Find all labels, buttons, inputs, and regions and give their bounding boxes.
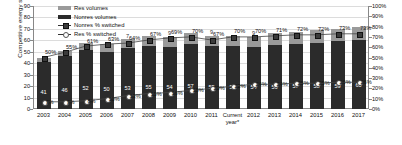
data-point-label: 61% [87, 38, 98, 44]
data-point-label: 73% [339, 25, 350, 31]
data-point-label: 10% [109, 96, 120, 102]
data-point [294, 33, 300, 39]
data-point-label: 8% [88, 98, 96, 104]
data-point-label: 72% [297, 26, 308, 32]
data-point-label: 7% [67, 99, 75, 105]
data-point-label: 18% [193, 87, 204, 93]
legend-label: Nonres volumes [74, 14, 117, 20]
data-point-label: 70% [192, 28, 203, 34]
data-point-label: 24% [277, 81, 288, 87]
legend-label: Res % switched [74, 31, 116, 37]
data-point-label: 50% [45, 49, 56, 55]
data-point [252, 35, 258, 41]
data-point-label: 69% [171, 29, 182, 35]
data-point-label: 26% [340, 79, 351, 85]
data-point-label: 25% [319, 80, 330, 86]
data-point-label: 7% [46, 99, 54, 105]
data-point-label: 16% [172, 90, 183, 96]
data-point-label: 26% [361, 79, 372, 85]
data-point [231, 35, 237, 41]
data-point-label: 22% [235, 83, 246, 89]
legend-swatch-icon [58, 15, 71, 19]
legend-label: Res volumes [74, 5, 108, 11]
legend-label: Nonres % switched [74, 22, 124, 28]
data-point-label: 20% [214, 85, 225, 91]
data-point-label: 70% [234, 28, 245, 34]
data-point-label: 70% [255, 28, 266, 34]
chart-legend: Res volumesNonres volumesNonres % switch… [58, 4, 124, 38]
data-point [357, 32, 363, 38]
legend-item[interactable]: Nonres volumes [58, 13, 124, 22]
data-point-label: 71% [276, 27, 287, 33]
legend-marker-icon [63, 32, 69, 38]
data-point-label: 25% [298, 80, 309, 86]
legend-marker-icon [63, 23, 69, 29]
data-point [105, 42, 111, 48]
data-point-label: 67% [150, 31, 161, 37]
data-point-label: 13% [130, 93, 141, 99]
data-point [63, 50, 69, 56]
data-point [189, 35, 195, 41]
legend-swatch-icon [58, 6, 71, 10]
data-point [210, 38, 216, 44]
data-point [336, 32, 342, 38]
data-point-label: 55% [66, 44, 77, 50]
data-point [273, 34, 279, 40]
x-tick-label: 2017 [342, 112, 376, 119]
data-point-label: 15% [151, 91, 162, 97]
data-point [42, 56, 48, 62]
data-point-label: 67% [213, 31, 224, 37]
data-point-label: 72% [318, 26, 329, 32]
legend-item[interactable]: Res % switched [58, 30, 124, 39]
data-point [147, 38, 153, 44]
data-point-label: 73% [360, 25, 371, 31]
data-point [315, 33, 321, 39]
legend-line-icon [58, 32, 71, 36]
legend-item[interactable]: Res volumes [58, 4, 124, 13]
data-point-label: 64% [129, 35, 140, 41]
chart-container: Competitive energy sales (TWh) 010203040… [0, 0, 402, 145]
data-point-label: 24% [256, 81, 267, 87]
data-point [84, 44, 90, 50]
legend-line-icon [58, 23, 71, 27]
data-point [168, 36, 174, 42]
data-point [126, 41, 132, 47]
legend-item[interactable]: Nonres % switched [58, 21, 124, 30]
